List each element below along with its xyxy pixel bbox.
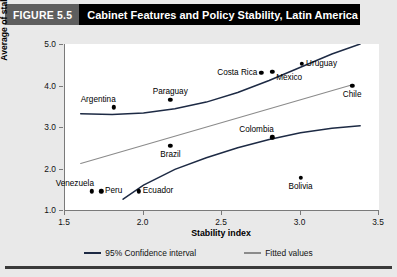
x-tick-mark [300,211,301,215]
y-tick-label: 2.0 [30,164,56,174]
data-point-label: Costa Rica [217,68,257,77]
data-point-label: Brazil [160,150,180,159]
y-tick-label: 4.0 [30,81,56,91]
plot-area: VenezuelaPeruEcuadorArgentinaParaguayBra… [64,44,379,211]
y-tick-mark [59,44,63,45]
x-tick-label: 2.0 [130,217,156,227]
y-tick-mark [59,86,63,87]
x-tick-label: 1.5 [51,217,77,227]
x-tick-mark [64,211,65,215]
x-tick-mark [221,211,222,215]
figure-container: FIGURE 5.5 Cabinet Features and Policy S… [0,0,397,277]
y-axis-title: Average of stability measures [0,0,9,80]
data-point-label: Venezuela [56,179,94,188]
series-fitted-values [81,85,353,164]
data-point-label: Ecuador [143,186,174,195]
legend-line-swatch [84,252,101,254]
y-tick-mark [59,169,63,170]
series-95-confidence-interval-upper-bound [81,44,360,115]
figure-title: Cabinet Features and Policy Stability, L… [79,4,358,25]
legend-label: 95% Confidence interval [105,248,196,258]
legend-label: Fitted values [265,248,312,258]
y-tick-label: 3.0 [30,122,56,132]
y-tick-mark [59,210,63,211]
x-tick-label: 2.5 [208,217,234,227]
chart-legend: 95% Confidence intervalFitted values [0,244,397,262]
y-tick-label: 1.0 [30,205,56,215]
x-tick-mark [143,211,144,215]
legend-line-swatch [244,252,261,254]
data-point-label: Colombia [239,125,274,134]
figure-bottom-rule [5,266,392,269]
legend-item: Fitted values [244,248,312,258]
plot-wrapper: Average of stability measures VenezuelaP… [0,28,397,243]
data-point-label: Peru [105,186,122,195]
figure-header: FIGURE 5.5 Cabinet Features and Policy S… [5,4,360,25]
x-tick-mark [378,211,379,215]
x-axis-title: Stability index [64,228,378,238]
data-point-label: Chile [343,90,362,99]
figure-number-label: FIGURE 5.5 [5,4,79,25]
legend-item: 95% Confidence interval [84,248,196,258]
x-tick-label: 3.5 [365,217,391,227]
data-point-label: Argentina [81,95,116,104]
y-tick-label: 5.0 [30,39,56,49]
data-point-label: Paraguay [153,87,188,96]
data-point-label: Bolivia [289,182,313,191]
data-point-label: Uruguay [306,59,337,68]
x-tick-label: 3.0 [287,217,313,227]
y-tick-mark [59,127,63,128]
data-point-label: Mexico [276,73,302,82]
